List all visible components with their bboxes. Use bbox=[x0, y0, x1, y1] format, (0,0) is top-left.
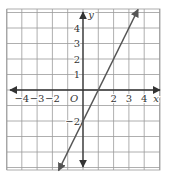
x-tick-label: 4 bbox=[141, 93, 147, 104]
y-tick-label: −2 bbox=[65, 116, 80, 127]
axes bbox=[10, 12, 160, 167]
y-tick-label: 1 bbox=[74, 69, 80, 80]
y-tick-label: 3 bbox=[74, 38, 80, 49]
y-axis-label: y bbox=[87, 9, 94, 20]
x-tick-label: −3 bbox=[30, 93, 45, 104]
tick-labels: −4−3−22344321−2Oxy bbox=[14, 9, 159, 127]
x-tick-label: −2 bbox=[45, 93, 60, 104]
x-tick-label: −4 bbox=[14, 93, 29, 104]
y-tick-label: 4 bbox=[74, 23, 80, 34]
x-tick-label: 2 bbox=[110, 93, 116, 104]
y-tick-label: 2 bbox=[74, 54, 80, 65]
coordinate-plane: −4−3−22344321−2Oxy bbox=[0, 0, 170, 184]
origin-label: O bbox=[70, 93, 78, 104]
x-tick-label: 3 bbox=[126, 93, 132, 104]
x-axis-label: x bbox=[153, 93, 159, 104]
